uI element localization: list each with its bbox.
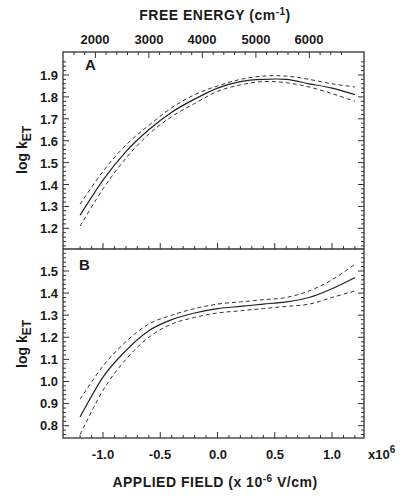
x-multiplier: x106 <box>368 444 396 462</box>
panel-a-y-axis-label: log kET <box>14 125 34 174</box>
x-tick-label: 0.5 <box>266 447 284 462</box>
confidence-bound-line <box>80 81 355 226</box>
panel-b-label: B <box>79 256 90 273</box>
axis-ticks <box>63 52 364 438</box>
y-tick-label: 1.5 <box>40 264 58 279</box>
panel-b-y-axis-label: log kET <box>14 319 34 368</box>
y-tick-label: 1.1 <box>40 352 58 367</box>
y-tick-label: 1.8 <box>40 90 58 105</box>
top-tick-label: 3000 <box>135 32 164 47</box>
y-tick-label: 1.3 <box>40 199 58 214</box>
top-axis-title: FREE ENERGY (cm-1) <box>139 6 290 23</box>
y-tick-label: 1.7 <box>40 112 58 127</box>
y-tick-label: 1.0 <box>40 374 58 389</box>
fit-line <box>80 278 355 417</box>
y-tick-label: 1.4 <box>40 178 59 193</box>
panel-a-y-tick-labels: 1.9 1.8 1.7 1.6 1.5 1.4 1.3 1.2 <box>40 68 59 236</box>
y-tick-label: 1.6 <box>40 134 58 149</box>
x-tick-label: 1.0 <box>323 447 341 462</box>
plot-frame <box>63 52 364 438</box>
figure: FREE ENERGY (cm-1) 2000 3000 4000 5000 6… <box>0 0 412 496</box>
panel-b-curves <box>80 264 355 434</box>
panel-a-label: A <box>85 56 96 73</box>
top-tick-label: 4000 <box>188 32 217 47</box>
y-tick-label: 1.5 <box>40 156 58 171</box>
top-tick-label: 2000 <box>81 32 110 47</box>
fit-line <box>80 79 355 215</box>
y-tick-label: 0.8 <box>40 418 58 433</box>
y-tick-label: 1.9 <box>40 68 58 83</box>
x-tick-label: 0.0 <box>209 447 227 462</box>
y-tick-label: 1.2 <box>40 221 58 236</box>
confidence-bound-line <box>80 264 355 399</box>
y-tick-label: 0.9 <box>40 396 58 411</box>
x-axis-title: APPLIED FIELD (x 10-6 V/cm) <box>112 473 317 490</box>
x-tick-label: -0.5 <box>149 447 171 462</box>
panel-b-y-tick-labels: 1.5 1.4 1.3 1.2 1.1 1.0 0.9 0.8 <box>40 264 59 433</box>
panel-a-curves <box>80 76 355 226</box>
y-tick-label: 1.4 <box>40 286 59 301</box>
y-tick-label: 1.3 <box>40 308 58 323</box>
x-tick-label: -1.0 <box>92 447 114 462</box>
x-tick-labels: -1.0 -0.5 0.0 0.5 1.0 <box>92 447 341 462</box>
top-tick-label: 6000 <box>295 32 324 47</box>
confidence-bound-line <box>80 291 355 435</box>
top-tick-label: 5000 <box>242 32 271 47</box>
top-axis-tick-labels: 2000 3000 4000 5000 6000 <box>81 32 324 47</box>
y-tick-label: 1.2 <box>40 330 58 345</box>
confidence-bound-line <box>80 76 355 205</box>
